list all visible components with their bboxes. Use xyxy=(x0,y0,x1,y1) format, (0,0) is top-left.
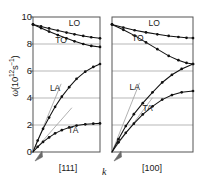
datapoint-LO xyxy=(122,26,125,29)
datapoint-TO xyxy=(32,23,35,26)
datapoint-TA xyxy=(92,122,95,125)
datapoint-LA xyxy=(124,125,127,128)
plot-area: LOTOLATALOTOLATA xyxy=(0,0,202,184)
branch-label-TO: TO xyxy=(55,35,67,45)
datapoint-LA xyxy=(75,77,78,80)
datapoint-TO xyxy=(167,55,170,58)
x-axis-label-k: k xyxy=(102,166,106,177)
datapoint-TO xyxy=(90,45,93,48)
asymptote-LA-sound-velocity xyxy=(112,83,140,152)
datapoint-LO xyxy=(167,35,170,38)
panel-111: LOTOLATA xyxy=(32,17,102,152)
datapoint-LA xyxy=(192,63,195,66)
branch-label-LA: LA xyxy=(129,82,140,92)
datapoint-LA xyxy=(42,127,45,130)
datapoint-TO xyxy=(99,46,102,49)
datapoint-TO xyxy=(122,28,125,31)
datapoint-LA xyxy=(161,81,164,84)
datapoint-TA xyxy=(117,141,120,144)
datapoint-TA xyxy=(171,94,174,97)
datapoint-TA xyxy=(124,131,127,134)
datapoint-TA xyxy=(84,123,87,126)
datapoint-LO xyxy=(65,31,68,34)
datapoint-TA xyxy=(60,129,63,132)
datapoint-LO xyxy=(177,36,180,39)
datapoint-TA xyxy=(42,141,45,144)
panel-caption-100: [100] xyxy=(132,163,172,173)
datapoint-LO xyxy=(192,37,195,40)
datapoint-LO xyxy=(90,36,93,39)
curve-LA xyxy=(33,64,100,152)
datapoint-LA xyxy=(171,73,174,76)
phonon-dispersion-figure: ω(1012s−1) 10 8 6 4 2 0 LOTOLATALOTOLATA… xyxy=(0,0,202,184)
branch-label-TA: TA xyxy=(142,103,153,113)
panel-caption-111: [111] xyxy=(48,163,88,173)
datapoint-LO xyxy=(133,29,136,32)
datapoint-TA xyxy=(36,146,39,149)
datapoint-LA xyxy=(54,105,57,108)
datapoint-LO xyxy=(73,33,76,36)
datapoint-TA xyxy=(54,132,57,135)
datapoint-TA xyxy=(192,90,195,93)
datapoint-TA xyxy=(161,98,164,101)
datapoint-TO xyxy=(48,30,51,33)
datapoint-TO xyxy=(73,40,76,43)
datapoint-LA xyxy=(36,139,39,142)
datapoint-TA xyxy=(180,91,183,94)
datapoint-LO xyxy=(145,31,148,34)
datapoint-LA xyxy=(84,70,87,73)
datapoint-LA xyxy=(117,138,120,141)
datapoint-TO xyxy=(145,41,148,44)
datapoint-LA xyxy=(151,91,154,94)
datapoint-TO xyxy=(40,27,43,30)
datapoint-LO xyxy=(82,35,85,38)
branch-label-LA: LA xyxy=(50,83,61,93)
datapoint-TO xyxy=(156,48,159,51)
branch-label-LO: LO xyxy=(148,18,160,28)
datapoint-LA xyxy=(99,63,102,66)
datapoint-TA xyxy=(99,122,102,125)
datapoint-TO xyxy=(185,62,188,65)
datapoint-LO xyxy=(185,36,188,39)
datapoint-TA xyxy=(141,113,144,116)
branch-label-TA: TA xyxy=(68,125,79,135)
branch-label-TO: TO xyxy=(132,33,144,43)
datapoint-TO xyxy=(82,43,85,46)
datapoint-LA xyxy=(180,68,183,71)
datapoint-TO xyxy=(177,59,180,62)
datapoint-LO xyxy=(48,27,51,30)
branch-label-LO: LO xyxy=(69,18,81,28)
datapoint-LA xyxy=(60,95,63,98)
datapoint-LO xyxy=(99,37,102,40)
panel-100: LOTOLATA xyxy=(111,17,195,152)
datapoint-LO xyxy=(156,33,159,36)
datapoint-LA xyxy=(68,86,71,89)
datapoint-LO xyxy=(56,29,59,32)
datapoint-LA xyxy=(92,66,95,69)
datapoint-TA xyxy=(133,122,136,125)
datapoint-LA xyxy=(48,116,51,119)
datapoint-TO xyxy=(111,23,114,26)
datapoint-LA xyxy=(133,113,136,116)
datapoint-TA xyxy=(48,136,51,139)
